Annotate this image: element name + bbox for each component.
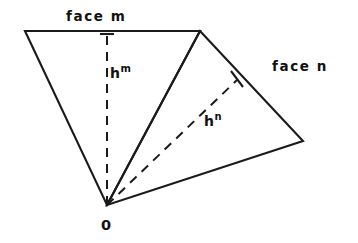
altitude-h-n-foot-tick [231,71,243,87]
face-m-label: face m [66,10,127,24]
geometry-diagram [0,0,358,243]
origin-point-label: 0 [101,218,111,233]
face-m-triangle [25,31,200,205]
h-m-superscript: m [120,63,130,74]
altitude-h-n-label: hn [204,114,222,128]
h-n-base: h [204,113,214,129]
face-n-label: face n [272,60,328,74]
altitude-h-m-label: hm [110,66,131,80]
h-m-base: h [110,65,120,81]
altitude-h-n-dashed-line [107,80,237,205]
h-n-superscript: n [214,111,221,122]
figure-container: face m face n hm hn 0 [0,0,358,243]
